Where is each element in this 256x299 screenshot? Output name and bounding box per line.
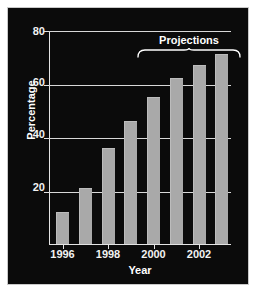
projections-annotation: Projections xyxy=(137,34,241,60)
bar-2001 xyxy=(170,78,183,244)
chart-plate: 80 60 40 20 Percentage xyxy=(8,8,248,284)
bar-2002 xyxy=(193,65,206,244)
y-tickmark-20 xyxy=(44,192,49,193)
bar-2003 xyxy=(215,54,228,244)
projections-label: Projections xyxy=(137,34,241,46)
y-tickmark-80 xyxy=(44,31,49,32)
bar-1998 xyxy=(102,148,115,244)
chart-frame: 80 60 40 20 Percentage xyxy=(7,7,249,285)
chart-figure: 80 60 40 20 Percentage xyxy=(0,0,256,299)
bar-2000 xyxy=(147,97,160,244)
x-axis-tick-labels: 1996 1998 2000 2002 xyxy=(49,248,231,264)
plot-area xyxy=(49,31,231,245)
x-tick-label-2002: 2002 xyxy=(187,248,211,261)
y-tickmark-40 xyxy=(44,138,49,139)
gridline-80 xyxy=(49,31,231,32)
bar-1999 xyxy=(124,121,137,244)
x-axis-title: Year xyxy=(49,264,231,276)
projections-brace-icon xyxy=(137,48,241,58)
y-tickmark-60 xyxy=(44,85,49,86)
x-axis-line xyxy=(49,244,231,245)
x-tick-label-2000: 2000 xyxy=(141,248,165,261)
x-tick-label-1996: 1996 xyxy=(50,248,74,261)
x-tick-label-1998: 1998 xyxy=(96,248,120,261)
bar-1997 xyxy=(79,188,92,244)
bar-1996 xyxy=(56,212,69,244)
y-axis-title: Percentage xyxy=(25,65,37,155)
